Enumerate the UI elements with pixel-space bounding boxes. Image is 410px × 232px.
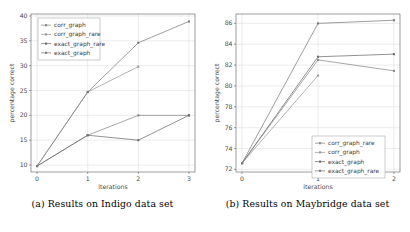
legend-marker-corr-graph — [319, 151, 321, 153]
data-point-exact-graph-rare — [393, 19, 395, 21]
legend-label-exact-graph: exact_graph — [54, 50, 91, 57]
y-axis-tick-label: 74 — [225, 145, 233, 152]
subfigure-b: 7274767880828486012iterationspercentage … — [205, 0, 410, 232]
legend-label-corr-graph: corr_graph — [328, 149, 360, 156]
y-axis-tick-label: 72 — [225, 165, 233, 172]
series-line-corr-graph — [242, 76, 318, 164]
y-axis-tick-label: 10 — [20, 161, 28, 168]
data-point-exact-graph-rare — [188, 114, 190, 116]
plot-maybridge: 7274767880828486012iterationspercentage … — [205, 0, 410, 200]
legend-marker-exact-graph-rare — [45, 43, 47, 45]
y-axis-tick-label: 35 — [20, 37, 28, 44]
y-axis-tick-label: 40 — [20, 12, 28, 19]
x-axis-tick-label: 0 — [240, 175, 244, 182]
legend-label-exact-graph-rare: exact_graph_rare — [328, 168, 380, 175]
legend-marker-exact-graph-rare — [319, 170, 321, 172]
y-axis-tick-label: 20 — [20, 111, 28, 118]
data-point-corr-graph-rare — [137, 66, 139, 68]
y-axis-label: percentage correct — [213, 63, 221, 122]
y-axis-tick-label: 82 — [225, 61, 233, 68]
chart-canvas-maybridge: 7274767880828486012iterationspercentage … — [205, 0, 410, 200]
x-axis-tick-label: 2 — [136, 175, 140, 182]
data-point-exact-graph-rare — [241, 162, 243, 164]
data-point-exact-graph — [393, 53, 395, 55]
y-axis-tick-label: 25 — [20, 87, 28, 94]
legend-label-corr-graph: corr_graph — [54, 22, 86, 29]
x-axis-tick-label: 3 — [187, 175, 191, 182]
x-axis-label: iterations — [303, 183, 332, 190]
y-axis-tick-label: 84 — [225, 40, 233, 47]
x-axis-tick-label: 1 — [86, 175, 90, 182]
series-line-exact-graph-rare — [37, 115, 189, 166]
legend-marker-exact-graph — [319, 161, 321, 163]
legend-marker-corr-graph-rare — [45, 33, 47, 35]
data-point-exact-graph — [317, 56, 319, 58]
data-point-exact-graph-rare — [137, 139, 139, 141]
data-point-exact-graph-rare — [317, 22, 319, 24]
y-axis-tick-label: 76 — [225, 124, 233, 131]
series-line-corr-graph — [37, 115, 189, 166]
legend-label-exact-graph-rare: exact_graph_rare — [54, 41, 106, 48]
subfigure-a: 101520253035400123iterationspercentage c… — [0, 0, 205, 232]
x-axis-label: iterations — [98, 183, 127, 190]
y-axis-tick-label: 30 — [20, 62, 28, 69]
x-axis-tick-label: 0 — [35, 175, 39, 182]
legend-marker-corr-graph-rare — [319, 142, 321, 144]
data-point-corr-graph — [137, 114, 139, 116]
data-point-corr-graph — [317, 74, 319, 76]
data-point-corr-graph-rare — [317, 59, 319, 61]
y-axis-tick-label: 78 — [225, 103, 233, 110]
y-axis-tick-label: 15 — [20, 136, 28, 143]
figure-row: 101520253035400123iterationspercentage c… — [0, 0, 410, 232]
data-point-exact-graph — [137, 42, 139, 44]
legend-marker-exact-graph — [45, 52, 47, 54]
plot-indigo: 101520253035400123iterationspercentage c… — [0, 0, 205, 200]
y-axis-tick-label: 86 — [225, 19, 233, 26]
data-point-exact-graph — [188, 20, 190, 22]
legend-label-exact-graph: exact_graph — [328, 159, 365, 166]
legend-label-corr-graph-rare: corr_graph_rare — [328, 140, 375, 147]
data-point-corr-graph-rare — [393, 70, 395, 72]
y-axis-tick-label: 80 — [225, 82, 233, 89]
legend-marker-corr-graph — [45, 24, 47, 26]
x-axis-tick-label: 2 — [392, 175, 396, 182]
data-point-exact-graph — [36, 165, 38, 167]
data-point-exact-graph — [87, 91, 89, 93]
data-point-exact-graph-rare — [87, 134, 89, 136]
y-axis-label: percentage correct — [8, 63, 16, 122]
legend-label-corr-graph-rare: corr_graph_rare — [54, 31, 101, 38]
chart-canvas-indigo: 101520253035400123iterationspercentage c… — [0, 0, 205, 200]
